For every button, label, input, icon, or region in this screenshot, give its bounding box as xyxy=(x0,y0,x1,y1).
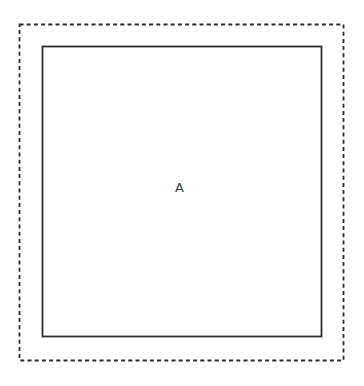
nested-rectangles-figure: A xyxy=(0,0,364,386)
region-label: A xyxy=(175,180,184,195)
diagram-canvas: A xyxy=(0,0,364,386)
